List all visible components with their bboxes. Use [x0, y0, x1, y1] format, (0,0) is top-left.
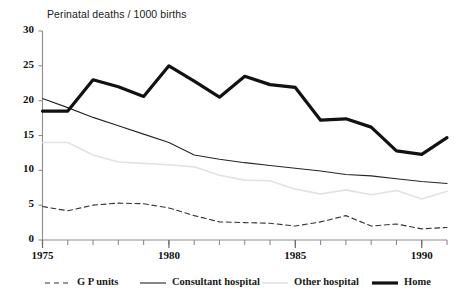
- thin-line-swatch: [140, 275, 166, 287]
- y-tick-label-30: 30: [8, 23, 34, 35]
- legend-label-2: Other hospital: [294, 276, 359, 287]
- chart-legend: G P unitsConsultant hospitalOther hospit…: [0, 272, 457, 292]
- legend-item-0[interactable]: G P units: [45, 272, 118, 290]
- x-tick-label-1975: 1975: [21, 249, 65, 261]
- y-tick-label-0: 0: [8, 232, 34, 244]
- legend-item-1[interactable]: Consultant hospital: [140, 272, 260, 290]
- legend-item-3[interactable]: Home: [372, 272, 431, 290]
- thick-line-swatch: [372, 275, 398, 287]
- series-line-3: [43, 66, 448, 154]
- legend-label-0: G P units: [77, 276, 118, 287]
- x-tick-label-1985: 1985: [273, 249, 317, 261]
- y-tick-label-15: 15: [8, 128, 34, 140]
- series-line-0: [43, 203, 448, 229]
- legend-label-3: Home: [404, 276, 431, 287]
- x-tick-label-1990: 1990: [400, 249, 444, 261]
- legend-item-2[interactable]: Other hospital: [262, 272, 359, 290]
- y-tick-label-5: 5: [8, 197, 34, 209]
- y-tick-label-10: 10: [8, 162, 34, 174]
- dashed-line-swatch: [45, 275, 71, 287]
- y-tick-label-25: 25: [8, 58, 34, 70]
- y-tick-label-20: 20: [8, 93, 34, 105]
- legend-label-1: Consultant hospital: [172, 276, 260, 287]
- plot-area: [0, 0, 457, 300]
- series-line-2: [43, 142, 448, 198]
- x-tick-label-1980: 1980: [147, 249, 191, 261]
- light-line-swatch: [262, 275, 288, 287]
- chart-container: Perinatal deaths / 1000 births 302520151…: [0, 0, 457, 300]
